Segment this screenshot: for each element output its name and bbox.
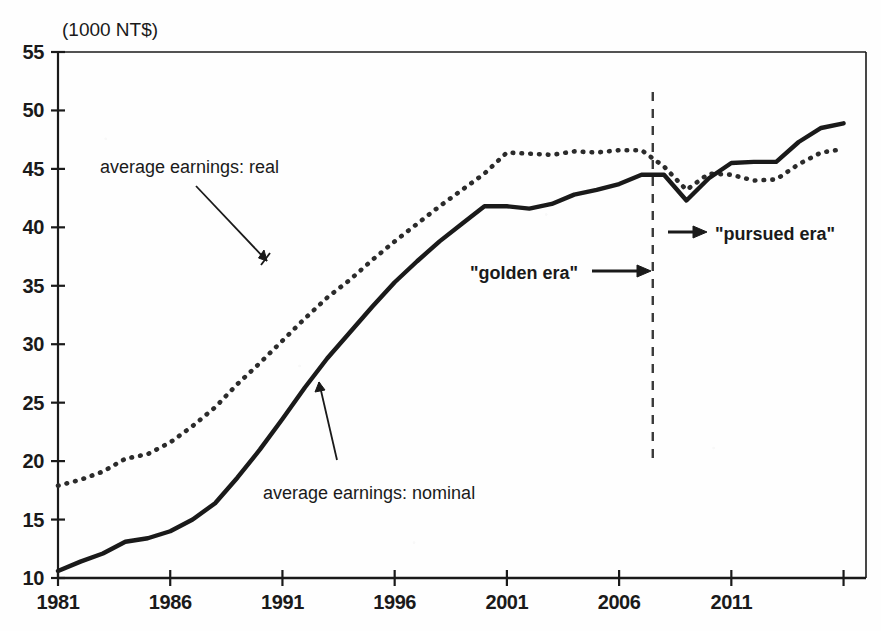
y-axis-tick-labels: 10152025303540455055 [23,41,45,589]
x-tick-label: 2011 [710,591,752,613]
chart-figure: 10152025303540455055 1981198619911996200… [0,0,881,631]
y-axis-unit-label: (1000 NT$) [62,19,158,40]
era-label-pursued: "pursued era" [715,224,835,244]
leader-arrow-real-icon [196,186,270,265]
y-tick-label: 10 [23,567,45,589]
x-tick-label: 1986 [149,591,192,613]
arrow-golden-era-icon [592,265,651,277]
y-tick-label: 15 [23,509,45,531]
y-tick-label: 30 [23,333,45,355]
annotation-arrows [196,186,707,460]
y-tick-label: 50 [23,99,45,121]
x-tick-label: 1991 [261,591,304,613]
era-label-golden: "golden era" [470,263,578,283]
y-tick-label: 20 [23,450,45,472]
series-line-average-earnings-real [58,149,844,486]
series-label-nominal: average earnings: nominal [263,483,475,503]
y-tick-label: 25 [23,392,45,414]
y-tick-label: 40 [23,216,45,238]
x-tick-label: 2006 [598,591,641,613]
series-label-real: average earnings: real [100,157,279,177]
y-tick-label: 45 [23,158,45,180]
arrow-pursued-era-icon [668,226,707,238]
y-tick-label: 55 [23,41,45,63]
series-line-average-earnings-nominal [58,123,844,571]
leader-arrow-nominal-icon [315,382,337,460]
x-axis-tick-labels: 1981198619911996200120062011 [37,591,753,613]
x-tick-label: 2001 [485,591,528,613]
earnings-line-chart: 10152025303540455055 1981198619911996200… [0,0,881,631]
x-tick-label: 1981 [37,591,80,613]
y-tick-label: 35 [23,275,45,297]
x-tick-label: 1996 [373,591,416,613]
